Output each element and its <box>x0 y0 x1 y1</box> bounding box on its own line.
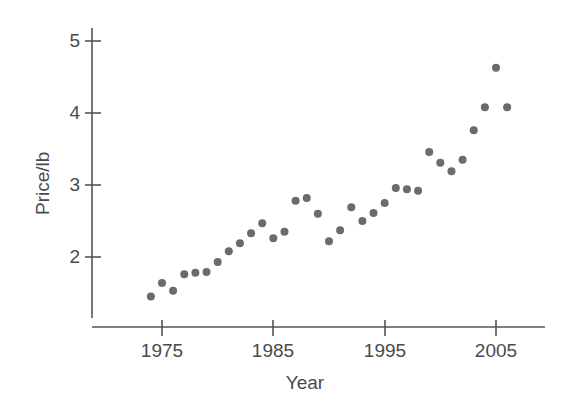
data-point <box>392 184 400 192</box>
scatter-chart-figure: 5 4 3 2 1975 1985 1995 2005 Price/lb Yea… <box>0 0 567 412</box>
x-tick-label-1975: 1975 <box>127 340 197 362</box>
data-point <box>325 237 333 245</box>
x-tick-label-1985: 1985 <box>238 340 308 362</box>
data-point <box>336 226 344 234</box>
data-point <box>214 258 222 266</box>
y-tick-label-2: 2 <box>40 246 80 268</box>
data-point <box>358 217 366 225</box>
data-point <box>258 219 266 227</box>
data-point <box>314 210 322 218</box>
data-point <box>203 268 211 276</box>
data-point <box>370 209 378 217</box>
y-axis-ticks <box>85 41 101 257</box>
data-point <box>280 228 288 236</box>
data-point <box>470 126 478 134</box>
data-point <box>247 229 255 237</box>
data-point <box>447 167 455 175</box>
data-point <box>303 194 311 202</box>
y-axis-label: Price/lb <box>32 152 54 215</box>
data-point <box>381 199 389 207</box>
data-point <box>492 64 500 72</box>
data-point <box>269 234 277 242</box>
data-point <box>169 287 177 295</box>
data-point <box>236 239 244 247</box>
data-point <box>425 148 433 156</box>
y-tick-label-4: 4 <box>40 102 80 124</box>
data-point <box>459 156 467 164</box>
x-axis-label: Year <box>245 372 365 394</box>
data-point <box>347 203 355 211</box>
x-axis-ticks <box>162 320 496 336</box>
data-point <box>436 159 444 167</box>
x-tick-label-2005: 2005 <box>461 340 531 362</box>
data-point-group <box>147 64 511 301</box>
data-point <box>403 185 411 193</box>
data-point <box>225 247 233 255</box>
data-point <box>481 103 489 111</box>
data-point <box>191 269 199 277</box>
data-point <box>158 279 166 287</box>
x-tick-label-1995: 1995 <box>350 340 420 362</box>
data-point <box>180 270 188 278</box>
data-point <box>414 187 422 195</box>
data-point <box>292 197 300 205</box>
data-point <box>503 103 511 111</box>
data-point <box>147 293 155 301</box>
y-tick-label-5: 5 <box>40 30 80 52</box>
